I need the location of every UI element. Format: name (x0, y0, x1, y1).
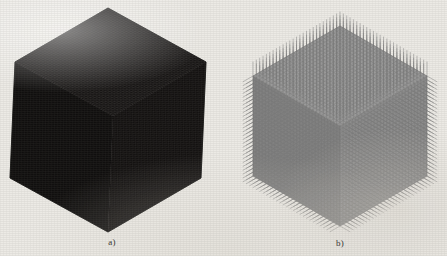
cube-mesh-dark (0, 0, 223, 256)
figure-panel-b (223, 0, 447, 256)
caption-panel-a: a) (92, 237, 132, 247)
cube-mesh-normals (223, 0, 447, 256)
caption-panel-b: b) (320, 238, 360, 248)
figure-panel-a (0, 0, 223, 256)
figure-page: a) b) (0, 0, 447, 256)
